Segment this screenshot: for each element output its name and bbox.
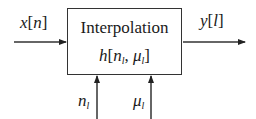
control-label-n: nl [78, 92, 89, 111]
block-title: Interpolation [68, 19, 181, 36]
block-function: h[nl, μl] [68, 47, 181, 66]
input-label: x[n] [20, 14, 47, 31]
control-label-mu: μl [133, 92, 144, 111]
output-label: y[l] [200, 12, 224, 29]
interpolation-block: Interpolation h[nl, μl] [67, 8, 182, 75]
